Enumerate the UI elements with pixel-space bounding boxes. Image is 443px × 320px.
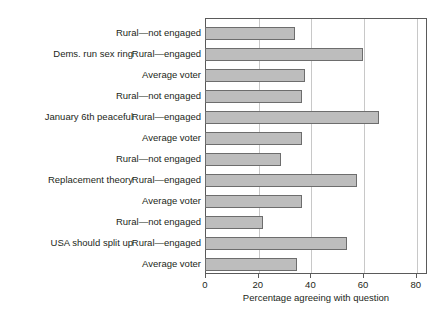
subcategory-label: Rural—engaged bbox=[132, 236, 201, 249]
bar bbox=[205, 90, 302, 103]
category-label: USA should split up bbox=[51, 236, 133, 249]
category-label: January 6th peaceful bbox=[45, 110, 133, 123]
x-tick-label: 60 bbox=[348, 279, 378, 291]
x-tick-label: 20 bbox=[243, 279, 273, 291]
category-labels: Dems. run sex ringJanuary 6th peacefulRe… bbox=[0, 18, 133, 274]
bars-layer bbox=[205, 18, 427, 274]
x-tick bbox=[363, 274, 364, 278]
bar bbox=[205, 174, 357, 187]
x-tick-label: 80 bbox=[401, 279, 431, 291]
bar bbox=[205, 237, 347, 250]
bar bbox=[205, 111, 379, 124]
subcategory-label: Average voter bbox=[142, 68, 201, 81]
category-label: Replacement theory bbox=[48, 173, 133, 186]
bar bbox=[205, 195, 302, 208]
x-tick bbox=[205, 274, 206, 278]
x-tick bbox=[416, 274, 417, 278]
bar bbox=[205, 27, 295, 40]
subcategory-label: Rural—engaged bbox=[132, 173, 201, 186]
bar bbox=[205, 216, 263, 229]
x-tick-label: 0 bbox=[190, 279, 220, 291]
bar-chart: Rural—not engagedRural—engagedAverage vo… bbox=[0, 0, 443, 320]
subcategory-label: Rural—engaged bbox=[132, 47, 201, 60]
subcategory-label: Average voter bbox=[142, 194, 201, 207]
bar bbox=[205, 48, 363, 61]
bar bbox=[205, 258, 297, 271]
x-tick-label: 40 bbox=[295, 279, 325, 291]
bar bbox=[205, 153, 281, 166]
subcategory-label: Rural—engaged bbox=[132, 110, 201, 123]
x-tick bbox=[310, 274, 311, 278]
subcategory-label: Average voter bbox=[142, 257, 201, 270]
bar bbox=[205, 69, 305, 82]
x-tick bbox=[258, 274, 259, 278]
category-label: Dems. run sex ring bbox=[53, 47, 133, 60]
x-axis-title: Percentage agreeing with question bbox=[205, 292, 427, 304]
subcategory-label: Average voter bbox=[142, 131, 201, 144]
bar bbox=[205, 132, 302, 145]
